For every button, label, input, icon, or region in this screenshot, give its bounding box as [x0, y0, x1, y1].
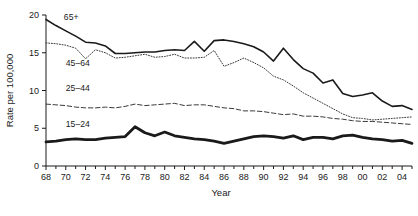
chart-container: 05101520Rate per 100,0006870727476788082…	[0, 0, 418, 216]
series-line-15-24	[46, 127, 412, 144]
y-tick-label: 15	[29, 48, 39, 58]
x-tick-label: 68	[41, 172, 51, 182]
x-tick-label: 02	[377, 172, 387, 182]
series-label-45-64: 45–64	[66, 58, 90, 68]
series-label-25-44: 25–44	[66, 83, 90, 93]
x-tick-label: 00	[358, 172, 368, 182]
x-tick-label: 76	[120, 172, 130, 182]
x-tick-label: 78	[140, 172, 150, 182]
x-tick-label: 70	[61, 172, 71, 182]
y-tick-label: 10	[29, 86, 39, 96]
x-tick-label: 86	[219, 172, 229, 182]
x-tick-label: 90	[259, 172, 269, 182]
x-tick-label: 98	[338, 172, 348, 182]
x-tick-label: 72	[81, 172, 91, 182]
x-axis-title: Year	[211, 187, 230, 198]
line-chart: 05101520Rate per 100,0006870727476788082…	[0, 0, 418, 216]
x-tick-label: 04	[397, 172, 407, 182]
x-tick-label: 94	[298, 172, 308, 182]
x-tick-label: 74	[100, 172, 110, 182]
series-label-15-24: 15–24	[66, 119, 90, 129]
x-tick-label: 82	[179, 172, 189, 182]
y-tick-label: 5	[34, 123, 39, 133]
figure-caption-partial	[0, 208, 418, 216]
y-axis-title: Rate per 100,000	[4, 54, 15, 127]
x-tick-label: 80	[160, 172, 170, 182]
x-tick-label: 96	[318, 172, 328, 182]
x-tick-label: 88	[239, 172, 249, 182]
y-tick-label: 20	[29, 10, 39, 20]
series-line-25-44	[46, 103, 412, 124]
y-tick-label: 0	[34, 161, 39, 171]
x-tick-label: 92	[278, 172, 288, 182]
series-label-65plus: 65+	[64, 12, 79, 22]
x-tick-label: 84	[199, 172, 209, 182]
